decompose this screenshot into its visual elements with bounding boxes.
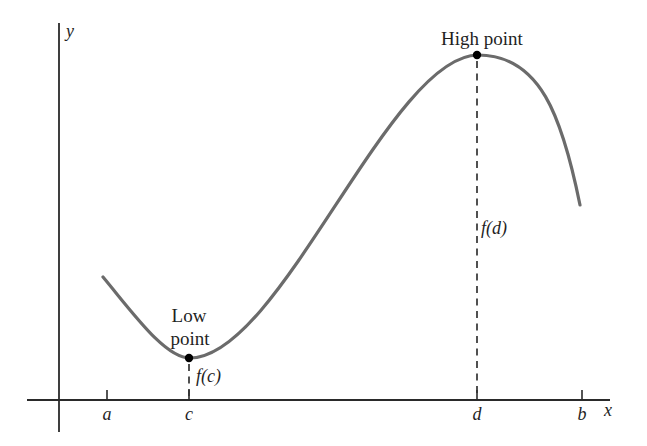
- figure-svg: y x acdb High point Low point f(c) f(d): [0, 0, 647, 446]
- x-axis-label: x: [603, 400, 612, 420]
- low-point-label-line1: Low: [172, 305, 207, 326]
- low-point-dot: [185, 354, 193, 362]
- f-of-c-label: f(c): [196, 366, 221, 387]
- x-ticks: acdb: [103, 390, 587, 424]
- high-point-label: High point: [441, 28, 524, 49]
- y-axis-label: y: [64, 21, 74, 41]
- x-tick-label-b: b: [578, 404, 587, 424]
- x-tick-label-c: c: [185, 404, 193, 424]
- x-tick-label-a: a: [103, 404, 112, 424]
- axes: [27, 23, 610, 432]
- x-tick-label-d: d: [473, 404, 483, 424]
- extrema-figure: y x acdb High point Low point f(c) f(d): [0, 0, 647, 446]
- f-of-d-label: f(d): [481, 218, 507, 239]
- high-point-dot: [473, 51, 481, 59]
- low-point-label-line2: point: [170, 328, 210, 349]
